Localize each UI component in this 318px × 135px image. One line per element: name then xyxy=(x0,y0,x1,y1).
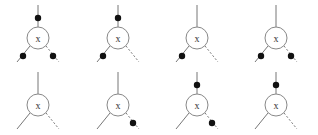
right-dashed-leg-line xyxy=(126,46,139,62)
right-dot-icon xyxy=(130,120,136,126)
vertex-label: x xyxy=(36,100,41,111)
vertex-diagram-grid: xxxxxxxx xyxy=(0,0,318,135)
right-dot-icon xyxy=(209,120,215,126)
right-dashed-leg-line xyxy=(284,113,297,129)
left-leg-line xyxy=(97,113,110,129)
top-dot-icon xyxy=(273,82,279,88)
right-dot-icon xyxy=(288,53,294,59)
vertex-diagram-7: x xyxy=(159,67,239,134)
vertex-diagram-4: x xyxy=(238,0,318,67)
vertex-diagram-2: x xyxy=(80,0,160,67)
vertex-label: x xyxy=(36,33,41,44)
left-dot-icon xyxy=(258,53,264,59)
vertex-label: x xyxy=(195,100,200,111)
vertex-diagram-1: x xyxy=(0,0,80,67)
vertex-diagram-3: x xyxy=(159,0,239,67)
top-dot-icon xyxy=(115,15,121,21)
top-dot-icon xyxy=(194,82,200,88)
left-leg-line xyxy=(176,113,189,129)
right-dashed-leg-line xyxy=(205,46,218,62)
vertex-label: x xyxy=(116,33,121,44)
left-dot-icon xyxy=(179,53,185,59)
vertex-label: x xyxy=(116,100,121,111)
right-dot-icon xyxy=(50,53,56,59)
left-dot-icon xyxy=(20,53,26,59)
vertex-label: x xyxy=(274,100,279,111)
vertex-diagram-5: x xyxy=(0,67,80,134)
vertex-label: x xyxy=(195,33,200,44)
vertex-label: x xyxy=(274,33,279,44)
left-dot-icon xyxy=(100,53,106,59)
vertex-diagram-6: x xyxy=(80,67,160,134)
top-dot-icon xyxy=(35,15,41,21)
left-leg-line xyxy=(17,113,30,129)
left-leg-line xyxy=(255,113,268,129)
vertex-diagram-8: x xyxy=(238,67,318,134)
right-dashed-leg-line xyxy=(46,113,59,129)
